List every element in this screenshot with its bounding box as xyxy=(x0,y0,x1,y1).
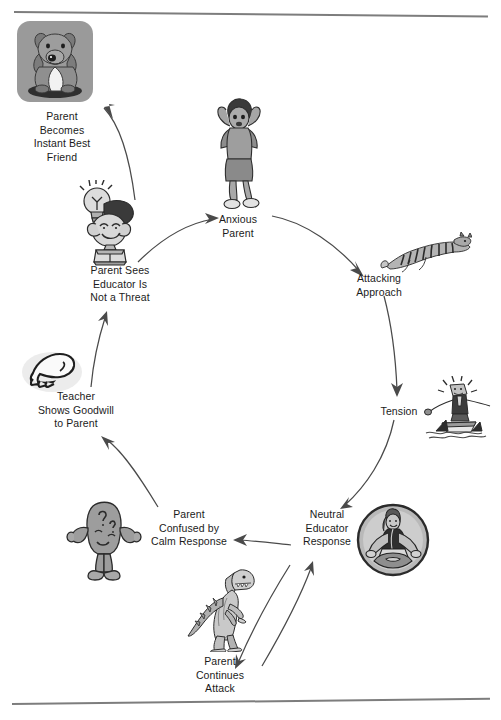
edge-teacher-goodwill-to-sees-not-threat xyxy=(91,311,108,387)
node-label-neutral-educator-response: Neutral Educator Response xyxy=(294,508,360,549)
meditating-woman-icon xyxy=(356,503,430,577)
cycle-diagram-figure: Parent Becomes Instant Best Friend Anxio… xyxy=(0,0,501,720)
lightbulb-head-figure-icon xyxy=(74,180,154,266)
man-on-raft-with-sharks-icon xyxy=(424,376,494,442)
node-label-anxious-parent: Anxious Parent xyxy=(201,213,275,240)
edge-attacking-approach-to-tension xyxy=(384,296,403,397)
open-hand-icon xyxy=(20,343,84,395)
top-divider-rule xyxy=(14,11,488,18)
node-label-tension: Tension xyxy=(368,405,430,419)
bottom-divider-rule xyxy=(12,698,490,705)
confused-blob-icon xyxy=(66,500,142,582)
node-label-parent-sees-educator-is-not-a-threat: Parent Sees Educator Is Not a Threat xyxy=(78,264,162,305)
edge-parent-confused-to-teacher-goodwill xyxy=(101,436,158,507)
node-label-parent-becomes-instant-best-friend: Parent Becomes Instant Best Friend xyxy=(14,110,110,164)
anxious-woman-icon xyxy=(208,96,270,212)
edge-neutral-educator-response-to-parent-confused xyxy=(233,534,291,546)
node-label-teacher-shows-goodwill-to-parent: Teacher Shows Goodwill to Parent xyxy=(28,390,124,431)
node-label-parent-confused-by-calm-response: Parent Confused by Calm Response xyxy=(143,508,235,549)
leaping-tiger-icon xyxy=(380,224,472,274)
puppy-dog-icon xyxy=(17,21,93,102)
tyrannosaurus-icon xyxy=(183,562,265,652)
node-label-attacking-approach: Attacking Approach xyxy=(340,272,418,299)
node-label-parent-continues-attack: Parent Continues Attack xyxy=(184,655,256,696)
edge-tension-to-neutral-educator-response xyxy=(340,420,394,509)
edge-anxious-parent-to-attacking-approach xyxy=(272,216,364,277)
edge-parent-continues-attack-to-neutral-educator-response xyxy=(262,561,314,666)
